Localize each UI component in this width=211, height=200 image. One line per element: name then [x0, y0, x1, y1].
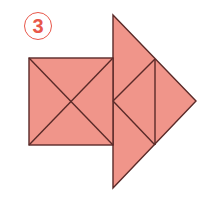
arrow-tangram-shape	[0, 0, 211, 200]
